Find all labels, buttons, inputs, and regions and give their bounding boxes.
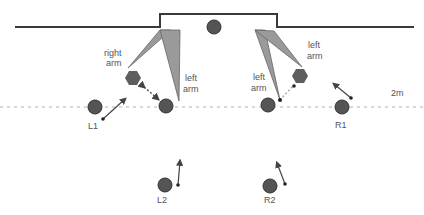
label-right-robot-arm-b-2: arm xyxy=(307,51,323,61)
R2-arrow xyxy=(277,163,285,184)
label-right-robot-arm-a-2: arm xyxy=(251,83,267,93)
label-right-robot-arm-a-1: left xyxy=(253,72,266,82)
player-R1 xyxy=(335,100,349,114)
label-distance: 2m xyxy=(391,88,404,98)
L2-arrow xyxy=(178,161,180,185)
center-ball xyxy=(207,20,221,34)
R2-arrow-tail-dot xyxy=(283,182,287,186)
L1-arrow-tail-dot xyxy=(101,117,105,121)
right-dotted-mid-dot xyxy=(292,84,296,88)
label-left-robot-right-arm-1: right xyxy=(104,48,122,58)
label-right-robot-arm-b-1: left xyxy=(308,40,321,50)
label-left-robot-left-arm-1: left xyxy=(185,73,198,83)
label-L1: L1 xyxy=(88,121,98,131)
player-L2 xyxy=(158,178,172,192)
R1-arrow xyxy=(334,84,351,98)
player-L1 xyxy=(88,100,102,114)
field-diagram: L1 R1 L2 R2 right arm left arm left arm … xyxy=(0,0,424,215)
label-R2: R2 xyxy=(264,195,276,205)
left-robot-left-arm-wedge xyxy=(160,30,180,101)
L1-arrow xyxy=(103,99,125,119)
R1-arrow-tail-dot xyxy=(349,96,353,100)
right-dotted-end-dot xyxy=(278,98,282,102)
left-hexagon-ball xyxy=(125,71,141,85)
left-robot-player xyxy=(159,99,173,113)
right-robot-player xyxy=(261,98,275,112)
player-R2 xyxy=(263,179,277,193)
label-left-robot-right-arm-2: arm xyxy=(106,58,122,68)
left-dotted-arrow xyxy=(144,87,158,99)
L2-arrow-tail-dot xyxy=(176,183,180,187)
label-R1: R1 xyxy=(335,120,347,130)
right-dotted-line xyxy=(280,86,293,100)
right-hexagon-ball xyxy=(292,69,308,83)
label-L2: L2 xyxy=(157,195,167,205)
label-left-robot-left-arm-2: arm xyxy=(183,84,199,94)
